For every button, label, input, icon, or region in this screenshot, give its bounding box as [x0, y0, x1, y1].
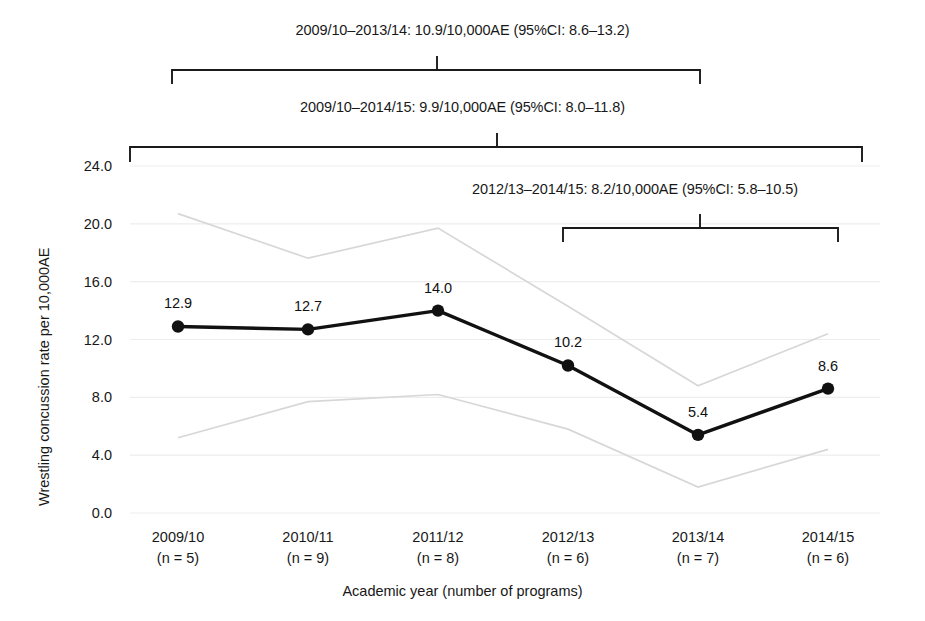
data-label-2014-15: 8.6: [793, 358, 863, 374]
bracket-2009-2014: [130, 133, 862, 162]
x-tick-2011-12: 2011/12 (n = 8): [378, 527, 498, 568]
data-label-2013-14: 5.4: [663, 404, 733, 420]
data-label-2011-12: 14.0: [403, 280, 473, 296]
x-tick-sublabel: (n = 6): [768, 548, 888, 569]
y-tick-label-20: 20.0: [58, 216, 112, 232]
x-tick-sublabel: (n = 6): [508, 548, 628, 569]
x-tick-label: 2010/11: [248, 527, 368, 548]
annotation-rate-2009-2014: 2009/10–2014/15: 9.9/10,000AE (95%CI: 8.…: [0, 99, 925, 115]
x-tick-sublabel: (n = 9): [248, 548, 368, 569]
x-tick-label: 2014/15: [768, 527, 888, 548]
y-tick-label-16: 16.0: [58, 274, 112, 290]
y-tick-label-4: 4.0: [58, 447, 112, 463]
x-tick-label: 2009/10: [118, 527, 238, 548]
x-tick-2010-11: 2010/11 (n = 9): [248, 527, 368, 568]
data-label-2009-10: 12.9: [143, 295, 213, 311]
x-tick-sublabel: (n = 5): [118, 548, 238, 569]
x-tick-label: 2012/13: [508, 527, 628, 548]
x-axis-title: Academic year (number of programs): [0, 583, 925, 599]
x-tick-label: 2011/12: [378, 527, 498, 548]
x-tick-sublabel: (n = 7): [638, 548, 758, 569]
bracket-2012-2014: [563, 214, 838, 242]
chart-figure: 2009/10–2013/14: 10.9/10,000AE (95%CI: 8…: [0, 0, 925, 621]
data-point-marker: [692, 429, 704, 441]
data-point-marker: [302, 323, 314, 335]
x-tick-2012-13: 2012/13 (n = 6): [508, 527, 628, 568]
annotation-rate-2012-2014: 2012/13–2014/15: 8.2/10,000AE (95%CI: 5.…: [90, 181, 925, 197]
x-tick-2013-14: 2013/14 (n = 7): [638, 527, 758, 568]
annotation-rate-2009-2013: 2009/10–2013/14: 10.9/10,000AE (95%CI: 8…: [0, 22, 925, 38]
data-point-marker: [562, 359, 574, 371]
y-tick-label-12: 12.0: [58, 332, 112, 348]
data-label-2012-13: 10.2: [533, 334, 603, 350]
y-axis-title: Wrestling concussion rate per 10,000AE: [36, 248, 52, 506]
x-tick-2009-10: 2009/10 (n = 5): [118, 527, 238, 568]
data-point-marker: [432, 304, 444, 316]
y-tick-label-8: 8.0: [58, 389, 112, 405]
bracket-2009-2013: [172, 56, 700, 84]
x-tick-label: 2013/14: [638, 527, 758, 548]
x-tick-sublabel: (n = 8): [378, 548, 498, 569]
x-tick-2014-15: 2014/15 (n = 6): [768, 527, 888, 568]
data-point-marker: [822, 382, 834, 394]
y-tick-label-0: 0.0: [58, 505, 112, 521]
y-tick-label-24: 24.0: [58, 158, 112, 174]
data-label-2010-11: 12.7: [273, 298, 343, 314]
data-point-marker: [172, 320, 184, 332]
